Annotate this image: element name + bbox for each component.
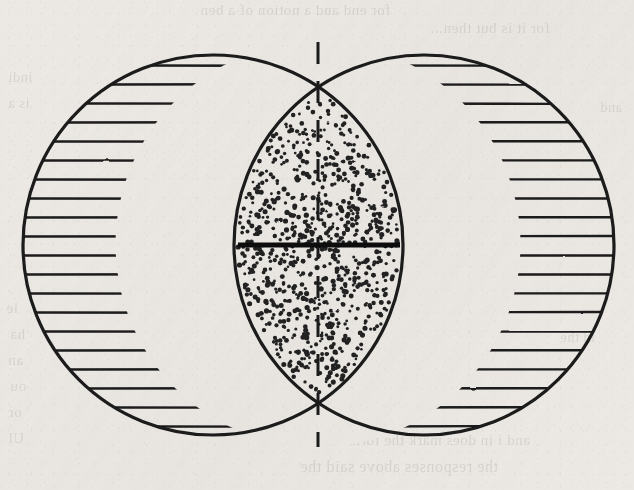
stipple-dot (320, 238, 323, 241)
stipple-dot (270, 145, 273, 148)
stipple-dot (305, 195, 308, 198)
stipple-dot (289, 213, 294, 218)
stipple-dot (369, 237, 373, 241)
stipple-dot (258, 209, 262, 213)
stipple-dot (394, 268, 398, 272)
stipple-dot (355, 135, 359, 139)
stipple-dot (361, 165, 365, 169)
stipple-dot (321, 294, 325, 298)
stipple-dot (291, 368, 296, 373)
stipple-dot (255, 189, 260, 194)
stipple-dot (286, 253, 289, 256)
stipple-dot (350, 305, 353, 308)
stipple-dot (348, 310, 351, 313)
stipple-dot (367, 283, 371, 287)
stipple-dot (283, 289, 286, 292)
stipple-dot (341, 160, 344, 163)
stipple-dot (328, 99, 332, 103)
stipple-dot (262, 216, 265, 219)
stipple-dot (264, 308, 269, 313)
stipple-dot (269, 138, 273, 142)
stipple-dot (374, 249, 379, 254)
stipple-dot (329, 155, 333, 159)
stipple-dot (300, 357, 304, 361)
stipple-dot (293, 230, 296, 233)
stipple-dot (332, 222, 335, 225)
stipple-dot (366, 170, 370, 174)
stipple-dot (366, 156, 369, 159)
stipple-dot (350, 143, 353, 146)
stipple-dot (354, 233, 357, 236)
stipple-dot (315, 265, 320, 270)
stipple-dot (281, 144, 285, 148)
stipple-dot (319, 212, 322, 215)
stipple-dot (377, 220, 381, 224)
stipple-dot (271, 316, 275, 320)
stipple-dot (332, 368, 335, 371)
stipple-dot (245, 292, 249, 296)
stipple-dot (369, 328, 372, 331)
stipple-dot (282, 187, 287, 192)
stipple-dot (316, 306, 319, 309)
stipple-dot (314, 297, 317, 300)
stipple-dot (306, 224, 311, 229)
stipple-dot (356, 266, 359, 269)
stipple-dot (350, 196, 354, 200)
stipple-dot (297, 271, 300, 274)
stipple-dot (384, 191, 387, 194)
stipple-dot (347, 269, 350, 272)
stipple-dot (335, 318, 338, 321)
stipple-dot (343, 322, 347, 326)
stipple-dot (343, 273, 346, 276)
stipple-dot (357, 282, 361, 286)
stipple-dot (295, 317, 299, 321)
stipple-dot (324, 162, 329, 167)
stipple-dot (298, 113, 301, 116)
stipple-dot (284, 227, 289, 232)
stipple-dot (280, 274, 285, 279)
stipple-dot (378, 215, 381, 218)
stipple-dot (360, 237, 365, 242)
stipple-dot (362, 154, 367, 159)
stipple-dot (365, 288, 369, 292)
stipple-dot (331, 253, 336, 258)
stipple-dot (251, 255, 255, 259)
stipple-dot (367, 314, 371, 318)
stipple-dot (271, 175, 275, 179)
stipple-dot (326, 229, 330, 233)
stipple-dot (295, 129, 299, 133)
stipple-dot (292, 256, 295, 259)
stipple-dot (296, 256, 299, 259)
stipple-dot (278, 356, 281, 359)
stipple-dot (334, 233, 339, 238)
stipple-dot (318, 303, 321, 306)
stipple-dot (294, 327, 297, 330)
stipple-dot (381, 184, 386, 189)
stipple-dot (339, 128, 342, 131)
stipple-dot (284, 268, 288, 272)
stipple-dot (320, 202, 324, 206)
stipple-dot (352, 160, 355, 163)
stipple-dot (271, 161, 274, 164)
stipple-dot (347, 221, 350, 224)
stipple-dot (284, 123, 287, 126)
stipple-dot (252, 169, 256, 173)
stipple-dot (331, 331, 336, 336)
stipple-dot (329, 291, 332, 294)
stipple-dot (293, 284, 297, 288)
stipple-dot (262, 202, 266, 206)
stipple-dot (378, 169, 381, 172)
stipple-dot (320, 356, 324, 360)
stipple-dot (372, 204, 376, 208)
stipple-dot (309, 384, 314, 389)
stipple-dot (243, 286, 247, 290)
stipple-dot (329, 322, 334, 327)
stipple-dot (294, 260, 298, 264)
stipple-dot (370, 173, 375, 178)
stipple-dot (248, 267, 251, 270)
stipple-dot (355, 358, 358, 361)
stipple-dot (286, 318, 290, 322)
stipple-dot (325, 333, 329, 337)
stipple-dot (239, 215, 243, 219)
stipple-dot (352, 284, 355, 287)
